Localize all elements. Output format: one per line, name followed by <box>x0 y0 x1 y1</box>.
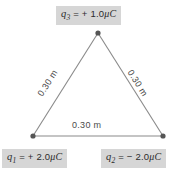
charge-magnitude-q3: 1.0 <box>90 8 104 19</box>
vertex-dot-q3 <box>95 30 100 35</box>
charge-equals-q3: = <box>73 8 79 19</box>
vertex-dot-q1 <box>30 133 35 138</box>
charge-sign-q1: + <box>28 151 34 162</box>
charge-subscript-q1: 1 <box>12 156 16 165</box>
charge-equals-q1: = <box>19 151 25 162</box>
charge-magnitude-q1: 2.0 <box>36 151 50 162</box>
charge-magnitude-q2: 2.0 <box>135 151 149 162</box>
charge-unit-q2: μC <box>149 151 161 162</box>
charge-unit-q1: μC <box>50 151 62 162</box>
charge-label-q3: q3 = + 1.0μC <box>56 6 121 25</box>
side-length-label-bottom: 0.30 m <box>72 120 101 130</box>
charge-label-q1: q1 = + 2.0μC <box>2 149 67 168</box>
triangle-edge-right <box>98 33 163 136</box>
charge-unit-q3: μC <box>104 8 116 19</box>
charge-triangle-diagram: q3 = + 1.0μC q1 = + 2.0μC q2 = − 2.0μC 0… <box>0 0 196 175</box>
charge-subscript-q2: 2 <box>111 156 115 165</box>
charge-sign-q2: − <box>127 151 133 162</box>
charge-equals-q2: = <box>118 151 124 162</box>
vertex-dot-q2 <box>160 133 165 138</box>
charge-label-q2: q2 = − 2.0μC <box>101 149 166 168</box>
charge-sign-q3: + <box>82 8 88 19</box>
charge-subscript-q3: 3 <box>66 13 70 22</box>
